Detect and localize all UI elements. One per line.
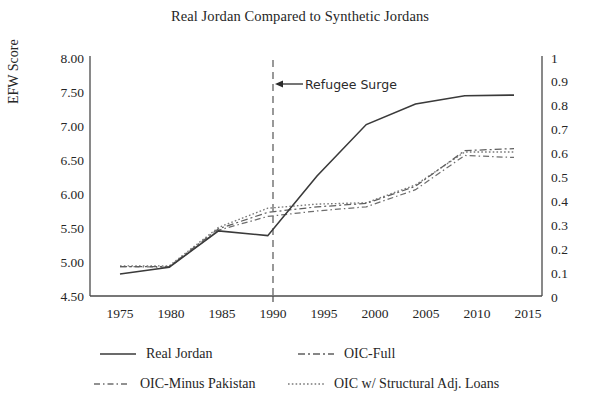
series-oic-minus-pakistan [120, 155, 514, 267]
legend-label: OIC w/ Structural Adj. Loans [334, 376, 499, 392]
annotation-refugee-surge: Refugee Surge [305, 77, 397, 92]
legend-key-dotted-icon [286, 378, 326, 390]
legend-key-dash-dot-fine-icon [92, 378, 132, 390]
legend-key-dash-dot-icon [296, 348, 336, 360]
series-real-jordan [120, 95, 514, 274]
legend-label: Real Jordan [146, 346, 212, 362]
legend-item-real-jordan[interactable]: Real Jordan [98, 346, 212, 362]
series-oic-structural-adj-loans [120, 152, 514, 266]
legend-key-solid-icon [98, 348, 138, 360]
legend-item-oic-structural-adj-loans[interactable]: OIC w/ Structural Adj. Loans [286, 376, 499, 392]
chart-figure: Real Jordan Compared to Synthetic Jordan… [0, 0, 600, 418]
legend-label: OIC-Full [344, 346, 395, 362]
chart-legend: Real Jordan OIC-Full OIC-Minus Pakistan [0, 342, 600, 414]
series-oic-full [120, 149, 514, 267]
legend-label: OIC-Minus Pakistan [140, 376, 256, 392]
annotation-arrow-head [275, 81, 283, 88]
legend-item-oic-full[interactable]: OIC-Full [296, 346, 395, 362]
legend-item-oic-minus-pakistan[interactable]: OIC-Minus Pakistan [92, 376, 256, 392]
